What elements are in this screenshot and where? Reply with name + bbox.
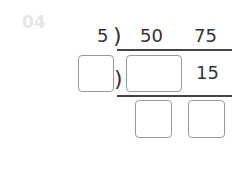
dividend-1: 50 bbox=[140, 27, 163, 45]
dividend-2: 75 bbox=[194, 27, 217, 45]
divisor-blank-box[interactable] bbox=[78, 55, 114, 92]
division-bracket: ) bbox=[113, 25, 122, 47]
result-blank-box-2[interactable] bbox=[188, 100, 225, 138]
division-line-top bbox=[117, 49, 232, 51]
quotient-15: 15 bbox=[196, 64, 219, 82]
problem-number: 04 bbox=[22, 14, 46, 31]
division-line-bottom bbox=[117, 95, 232, 97]
quotient-blank-box[interactable] bbox=[126, 55, 182, 92]
result-blank-box-1[interactable] bbox=[135, 100, 172, 138]
divisor-label: 5 bbox=[97, 27, 108, 45]
division-bracket-2: ) bbox=[114, 68, 123, 90]
